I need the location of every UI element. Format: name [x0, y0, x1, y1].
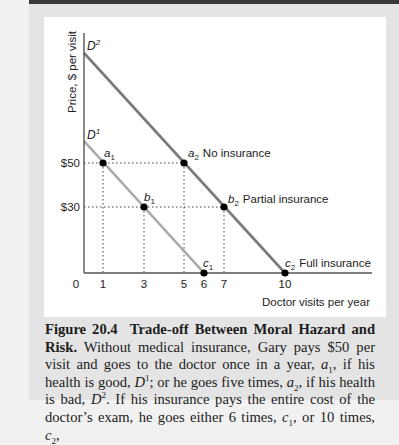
label-a1: a1 [104, 147, 115, 162]
y-tick-50: $50 [61, 157, 80, 169]
x-axis-label: Doctor visits per year [262, 296, 370, 308]
point-c1 [200, 269, 207, 276]
svg-text:5: 5 [181, 278, 187, 290]
point-c2 [281, 269, 288, 276]
data-points [99, 159, 288, 276]
point-a2 [180, 159, 187, 166]
label-b2: b2Partial insurance [228, 193, 329, 208]
svg-text:7: 7 [221, 278, 227, 290]
svg-text:3: 3 [141, 278, 147, 290]
label-c2: c2Full insurance [285, 257, 371, 272]
y-axis-label: Price, $ per visit [66, 30, 78, 113]
y-tick-30: $30 [61, 201, 80, 213]
svg-text:6: 6 [201, 278, 207, 290]
point-b1 [140, 203, 147, 210]
svg-text:0: 0 [73, 278, 79, 290]
label-b1: b1 [144, 191, 155, 206]
point-b2 [220, 203, 227, 210]
label-a2: a2No insurance [188, 147, 271, 162]
svg-text:10: 10 [279, 278, 292, 290]
point-a1 [99, 159, 106, 166]
svg-text:1: 1 [100, 278, 106, 290]
figure-number: Figure 20.4 [45, 321, 118, 337]
d1-label: D1 [87, 127, 100, 142]
d2-label: D2 [87, 38, 101, 53]
x-ticks: 0 1 3 5 6 7 10 [73, 278, 292, 290]
figure-caption: Figure 20.4 Trade-off Between Moral Haza… [45, 321, 375, 444]
